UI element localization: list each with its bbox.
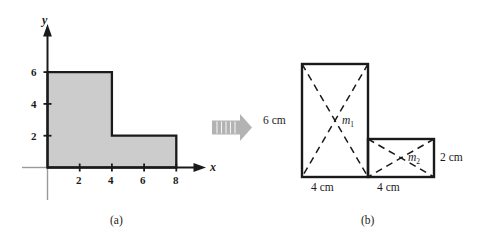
x-axis-arrowhead: [194, 163, 207, 172]
figure-canvas: y x 2 4 6 8 2 4 6 6 cm 2 cm 4 cm 4 cm m1…: [0, 0, 480, 244]
mass-label-m1-subscript: 1: [350, 120, 354, 129]
mass-label-m2-subscript: 2: [416, 157, 420, 166]
rect-m1-diagonals: [302, 64, 368, 177]
x-tick-label-4: 4: [108, 175, 114, 186]
rect-m2-diagonals: [368, 139, 434, 177]
l-shaped-lamina: [48, 72, 177, 167]
rect-m2-width-label: 4 cm: [377, 182, 400, 194]
x-axis-label: x: [210, 161, 216, 173]
y-tick-label-4: 4: [31, 99, 37, 110]
mass-label-m2: m2: [408, 152, 420, 166]
y-tick-label-2: 2: [31, 131, 37, 142]
rect-m2-height-label: 2 cm: [440, 152, 463, 164]
caption-panel-b: (b): [361, 215, 374, 227]
rect-m1-width-label: 4 cm: [311, 182, 334, 194]
mass-label-m1: m1: [342, 115, 354, 129]
y-tick-label-6: 6: [31, 67, 37, 78]
caption-panel-a: (a): [110, 215, 123, 227]
y-axis-label: y: [42, 14, 47, 26]
transform-arrow: [212, 114, 252, 141]
rect-m1-height-label: 6 cm: [263, 115, 286, 127]
x-tick-label-8: 8: [173, 175, 179, 186]
figure-svg: [0, 0, 480, 244]
x-tick-label-6: 6: [140, 175, 146, 186]
x-tick-label-2: 2: [76, 175, 82, 186]
